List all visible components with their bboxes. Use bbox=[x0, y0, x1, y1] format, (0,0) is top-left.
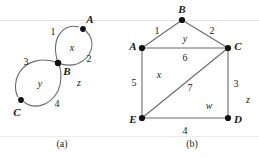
node-a-B bbox=[55, 60, 61, 66]
edge-b-BC bbox=[182, 20, 228, 48]
panel-a-graph bbox=[15, 26, 91, 106]
node-b-C bbox=[225, 45, 231, 51]
edge-4-arc bbox=[24, 63, 61, 106]
node-a-C bbox=[18, 97, 24, 103]
edge-b-EC bbox=[142, 48, 228, 118]
edge-1-arc bbox=[56, 26, 79, 63]
node-a-A bbox=[80, 26, 86, 32]
node-b-B bbox=[179, 17, 185, 23]
panel-b-graph bbox=[139, 17, 231, 121]
edge-b-AB bbox=[142, 20, 182, 48]
edge-2-arc bbox=[58, 31, 92, 65]
figure-canvas bbox=[0, 0, 259, 157]
edge-3-arc bbox=[15, 60, 58, 97]
node-b-A bbox=[139, 45, 145, 51]
node-b-E bbox=[139, 115, 145, 121]
node-b-D bbox=[225, 115, 231, 121]
